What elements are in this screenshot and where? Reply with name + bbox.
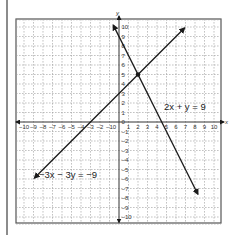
y-tick-label: 10 [122, 24, 129, 30]
x-tick-label: −2 [97, 124, 105, 130]
equation-label-2x-plus-y: 2x + y = 9 [164, 101, 206, 112]
y-tick-label: −9 [122, 205, 130, 211]
y-tick-label: −5 [122, 167, 130, 173]
y-tick-label: −6 [122, 176, 130, 182]
x-tick-label: 10 [211, 124, 218, 130]
y-tick-label: −10 [122, 214, 133, 220]
coordinate-plane-chart: −10−9−8−7−6−5−4−3−2−11234567891010987654… [0, 0, 232, 235]
x-tick-label: −5 [68, 124, 76, 130]
equation-label-neg3x-minus-3y: −3x − 3y = −9 [39, 169, 97, 180]
x-tick-label: −9 [30, 124, 38, 130]
intersection-point [136, 72, 141, 77]
x-tick-label: −8 [40, 124, 48, 130]
y-tick-label: −7 [122, 186, 130, 192]
y-tick-label: −8 [122, 195, 130, 201]
x-tick-label: −10 [19, 124, 30, 130]
y-axis-label: y [115, 10, 120, 16]
x-tick-label: −7 [49, 124, 57, 130]
y-tick-label: −1 [122, 129, 130, 135]
y-tick-label: −2 [122, 138, 130, 144]
y-tick-label: −4 [122, 157, 130, 163]
y-tick-label: −3 [122, 148, 130, 154]
x-axis-label: x [224, 119, 229, 125]
x-tick-label: −6 [59, 124, 67, 130]
